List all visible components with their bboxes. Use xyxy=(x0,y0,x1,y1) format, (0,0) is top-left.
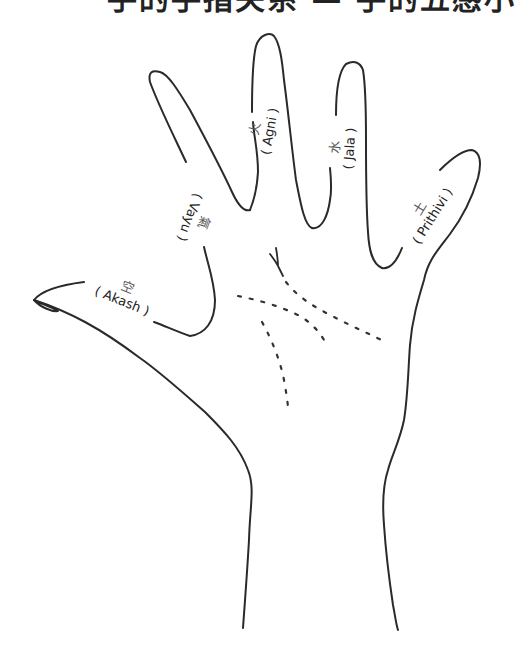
thumb-outline xyxy=(34,282,84,300)
thumb-upper-edge xyxy=(154,247,215,336)
label-jala-en: ( Jala ) xyxy=(341,120,358,177)
palm-y-mark xyxy=(270,248,283,276)
thumb-lower-edge xyxy=(34,300,252,628)
palm-line-head xyxy=(238,296,324,340)
palm-line-heart xyxy=(286,282,385,342)
palm-line-life xyxy=(262,322,288,410)
label-jala: 水 ( Jala ) xyxy=(326,119,358,177)
